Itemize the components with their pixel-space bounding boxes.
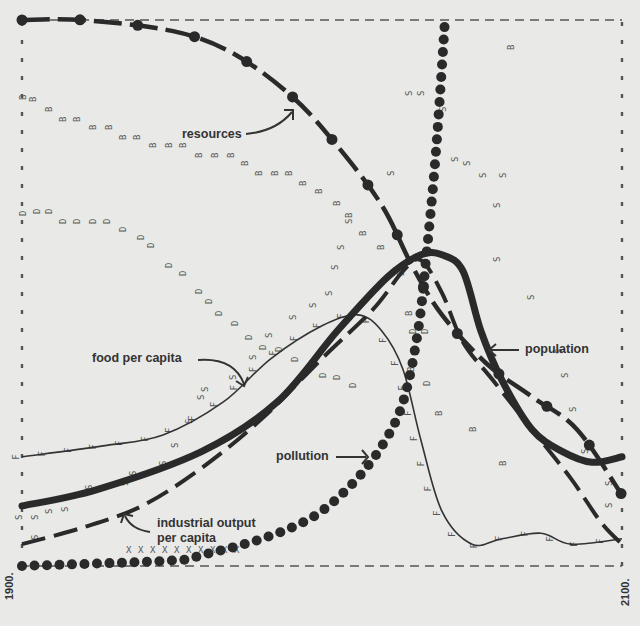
tick-2100: 2100. bbox=[619, 578, 631, 606]
svg-text:X: X bbox=[138, 545, 144, 555]
svg-text:B: B bbox=[18, 95, 28, 100]
svg-text:X: X bbox=[174, 545, 180, 555]
svg-text:S: S bbox=[288, 315, 298, 320]
svg-text:D: D bbox=[318, 373, 328, 378]
svg-text:B: B bbox=[376, 245, 386, 250]
svg-text:D: D bbox=[258, 345, 268, 350]
svg-text:B: B bbox=[314, 189, 324, 194]
letter-markers: FFFFFFFFFFFFFFFFFFFFFFFFFFFFFFFBBBBBBBBB… bbox=[11, 45, 614, 555]
svg-text:F: F bbox=[432, 510, 442, 515]
svg-text:S: S bbox=[30, 515, 40, 520]
svg-text:S: S bbox=[492, 257, 502, 262]
svg-text:S: S bbox=[228, 375, 238, 380]
svg-text:B: B bbox=[468, 427, 478, 432]
svg-text:F: F bbox=[416, 461, 426, 466]
svg-text:D: D bbox=[290, 357, 300, 362]
svg-text:S: S bbox=[196, 395, 206, 400]
svg-text:F: F bbox=[11, 454, 21, 459]
svg-text:X: X bbox=[162, 545, 168, 555]
label-population: population bbox=[525, 342, 589, 356]
svg-text:D: D bbox=[214, 311, 224, 316]
svg-text:D: D bbox=[422, 381, 432, 386]
svg-text:X: X bbox=[150, 545, 156, 555]
svg-text:S: S bbox=[308, 303, 318, 308]
svg-text:S: S bbox=[462, 161, 472, 166]
label-industrial-output: industrial output bbox=[157, 516, 256, 530]
svg-text:D: D bbox=[44, 209, 54, 214]
svg-text:S: S bbox=[248, 355, 258, 360]
svg-text:S: S bbox=[568, 407, 578, 412]
svg-text:S: S bbox=[14, 515, 24, 520]
svg-text:D: D bbox=[88, 219, 98, 224]
svg-text:B: B bbox=[240, 161, 250, 166]
svg-text:S: S bbox=[604, 503, 614, 508]
svg-text:S: S bbox=[200, 387, 210, 392]
svg-text:D: D bbox=[102, 219, 112, 224]
svg-text:B: B bbox=[498, 461, 508, 466]
label-food-per-capita: food per capita bbox=[92, 351, 183, 365]
svg-text:X: X bbox=[186, 545, 192, 555]
x-axis-ticks: 1900. 2100. bbox=[3, 572, 631, 606]
svg-text:B: B bbox=[298, 181, 308, 186]
svg-text:B: B bbox=[72, 117, 82, 122]
svg-text:B: B bbox=[88, 125, 98, 130]
svg-text:D: D bbox=[332, 375, 342, 380]
svg-text:B: B bbox=[194, 153, 204, 158]
svg-text:F: F bbox=[409, 436, 419, 441]
svg-text:D: D bbox=[72, 219, 82, 224]
svg-text:B: B bbox=[118, 135, 128, 140]
svg-text:B: B bbox=[332, 201, 342, 206]
svg-text:D: D bbox=[204, 299, 214, 304]
svg-text:S: S bbox=[492, 203, 502, 208]
svg-text:D: D bbox=[230, 321, 240, 326]
svg-text:S: S bbox=[344, 219, 354, 224]
svg-text:B: B bbox=[104, 125, 114, 130]
svg-text:D: D bbox=[244, 335, 254, 340]
svg-text:D: D bbox=[178, 271, 188, 276]
svg-text:B: B bbox=[358, 231, 368, 236]
svg-text:B: B bbox=[164, 143, 174, 148]
svg-text:B: B bbox=[270, 171, 280, 176]
svg-text:B: B bbox=[506, 45, 516, 50]
svg-text:B: B bbox=[254, 171, 264, 176]
svg-text:D: D bbox=[164, 263, 174, 268]
svg-text:B: B bbox=[284, 171, 294, 176]
svg-text:F: F bbox=[378, 338, 388, 343]
series-resources bbox=[22, 19, 622, 495]
svg-text:B: B bbox=[148, 143, 158, 148]
svg-text:S: S bbox=[386, 171, 396, 176]
svg-text:S: S bbox=[478, 173, 488, 178]
svg-text:X: X bbox=[126, 545, 132, 555]
svg-text:D: D bbox=[348, 383, 358, 388]
svg-text:S: S bbox=[330, 265, 340, 270]
svg-text:B: B bbox=[178, 143, 188, 148]
svg-text:B: B bbox=[210, 153, 220, 158]
svg-text:D: D bbox=[136, 235, 146, 240]
series-population bbox=[22, 252, 622, 506]
svg-text:S: S bbox=[60, 507, 70, 512]
svg-text:S: S bbox=[416, 91, 426, 96]
svg-text:S: S bbox=[526, 295, 536, 300]
tick-1900: 1900. bbox=[3, 572, 15, 600]
svg-text:S: S bbox=[264, 333, 274, 338]
svg-text:B: B bbox=[58, 117, 68, 122]
svg-text:S: S bbox=[324, 291, 334, 296]
svg-text:S: S bbox=[560, 373, 570, 378]
svg-text:D: D bbox=[118, 227, 128, 232]
svg-text:D: D bbox=[194, 289, 204, 294]
label-pollution: pollution bbox=[276, 449, 329, 463]
svg-text:S: S bbox=[336, 245, 346, 250]
series-industrial-output bbox=[22, 259, 622, 544]
svg-text:S: S bbox=[404, 91, 414, 96]
svg-text:B: B bbox=[404, 311, 414, 316]
svg-text:D: D bbox=[146, 243, 156, 248]
svg-text:F: F bbox=[423, 486, 433, 491]
svg-text:D: D bbox=[32, 209, 42, 214]
svg-text:D: D bbox=[18, 211, 28, 216]
world-model-chart: FFFFFFFFFFFFFFFFFFFFFFFFFFFFFFFBBBBBBBBB… bbox=[0, 0, 640, 626]
svg-text:S: S bbox=[498, 173, 508, 178]
svg-text:S: S bbox=[44, 509, 54, 514]
svg-text:S: S bbox=[170, 443, 180, 448]
svg-text:D: D bbox=[58, 219, 68, 224]
series-resources-dots bbox=[17, 14, 627, 499]
